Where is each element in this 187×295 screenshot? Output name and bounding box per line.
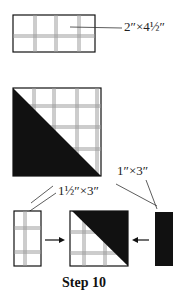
- quilt-diagram: [0, 0, 187, 295]
- arrow-left-icon: [132, 237, 149, 243]
- rotated-half-square-triangle: [70, 211, 128, 266]
- plaid-strip-dimension-label: 1½″×3″: [58, 184, 99, 197]
- step-caption: Step 10: [62, 276, 106, 290]
- plaid-rectangle: [13, 15, 95, 52]
- dark-strip-leader-line-1: [116, 184, 157, 206]
- plaid-strip-leader-line-1: [31, 186, 53, 203]
- dark-strip: [155, 212, 173, 266]
- arrow-right-icon: [45, 237, 65, 243]
- half-square-triangle: [13, 88, 101, 176]
- dark-strip-dimension-label: 1″×3″: [117, 164, 148, 177]
- small-plaid-rectangle: [14, 211, 41, 266]
- top-strip-dimension-label: 2″×4½″: [124, 20, 165, 33]
- dark-strip-leader-line-2: [146, 180, 157, 209]
